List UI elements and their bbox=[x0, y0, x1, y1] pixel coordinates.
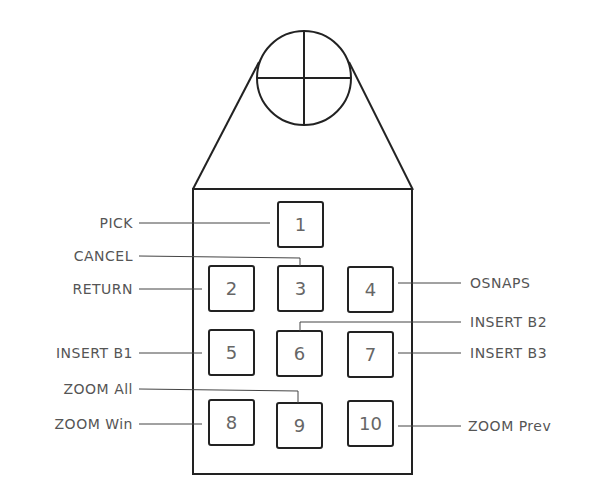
button-1-number: 1 bbox=[295, 214, 306, 235]
leader-insert-b2 bbox=[300, 322, 461, 331]
leader-cancel bbox=[139, 256, 300, 266]
button-5[interactable]: 5 bbox=[209, 330, 254, 375]
label-zoom-prev: ZOOM Prev bbox=[468, 418, 551, 434]
button-9[interactable]: 9 bbox=[277, 403, 322, 448]
crosshair-lens bbox=[257, 31, 351, 125]
button-4[interactable]: 4 bbox=[348, 267, 393, 312]
button-4-number: 4 bbox=[365, 279, 376, 300]
button-3[interactable]: 3 bbox=[278, 266, 323, 311]
button-8-number: 8 bbox=[226, 412, 237, 433]
label-insert-b2: INSERT B2 bbox=[470, 314, 547, 330]
button-10[interactable]: 10 bbox=[348, 401, 393, 446]
label-cancel: CANCEL bbox=[74, 248, 133, 264]
button-5-number: 5 bbox=[226, 342, 237, 363]
button-9-number: 9 bbox=[294, 415, 305, 436]
button-3-number: 3 bbox=[295, 278, 306, 299]
puck-diagram: 1 2 3 4 5 6 7 8 9 10 bbox=[0, 0, 606, 498]
puck-left-edge bbox=[193, 62, 259, 189]
label-return: RETURN bbox=[72, 281, 133, 297]
button-2[interactable]: 2 bbox=[209, 266, 254, 311]
button-10-number: 10 bbox=[359, 413, 382, 434]
button-6-number: 6 bbox=[294, 343, 305, 364]
button-6[interactable]: 6 bbox=[277, 331, 322, 376]
label-zoom-all: ZOOM All bbox=[63, 381, 133, 397]
button-1[interactable]: 1 bbox=[278, 202, 323, 247]
button-2-number: 2 bbox=[226, 278, 237, 299]
label-zoom-win: ZOOM Win bbox=[55, 416, 133, 432]
puck-right-edge bbox=[349, 62, 413, 190]
button-8[interactable]: 8 bbox=[209, 400, 254, 445]
label-insert-b1: INSERT B1 bbox=[56, 345, 133, 361]
button-7[interactable]: 7 bbox=[348, 332, 393, 377]
label-insert-b3: INSERT B3 bbox=[470, 345, 547, 361]
button-7-number: 7 bbox=[365, 344, 376, 365]
label-pick: PICK bbox=[99, 215, 133, 231]
label-osnaps: OSNAPS bbox=[470, 275, 530, 291]
